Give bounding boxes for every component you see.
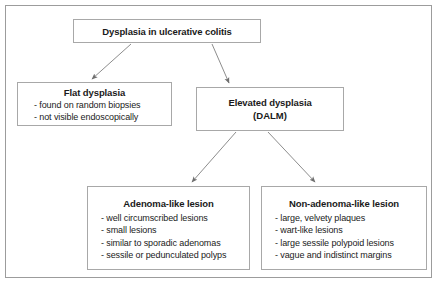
node-non-adenoma-like-lesion[interactable]: Non-adenoma-like lesion - large, velvety… (261, 186, 427, 270)
node-flat-dysplasia[interactable]: Flat dysplasia - found on random biopsie… (17, 82, 172, 126)
node-dysplasia-in-ulcerative-colitis[interactable]: Dysplasia in ulcerative colitis (73, 19, 261, 43)
list-item: - similar to sporadic adenomas (101, 237, 249, 249)
list-item: - large, velvety plaques (275, 212, 426, 224)
node-adenoma-like-lesion[interactable]: Adenoma-like lesion - well circumscribed… (87, 186, 250, 270)
list-item: - large sessile polypoid lesions (275, 237, 426, 249)
diagram-canvas: Dysplasia in ulcerative colitis Flat dys… (0, 0, 441, 288)
list-item: - vague and indistinct margins (275, 249, 426, 261)
node-title: Adenoma-like lesion (88, 197, 249, 210)
node-bullet-list: - found on random biopsies - not visible… (18, 99, 171, 124)
arrow-root-to-flat (92, 44, 131, 79)
list-item: - found on random biopsies (34, 99, 171, 111)
list-item: - well circumscribed lesions (101, 212, 249, 224)
arrow-elevated-to-adenoma (192, 132, 236, 182)
list-item: - not visible endoscopically (34, 111, 171, 123)
arrow-root-to-elevated (212, 44, 229, 83)
list-item: - small lesions (101, 224, 249, 236)
node-bullet-list: - large, velvety plaques - wart-like les… (262, 212, 426, 262)
list-item: - sessile or pedunculated polyps (101, 249, 249, 261)
node-title: Flat dysplasia (18, 86, 171, 99)
list-item: - wart-like lesions (275, 224, 426, 236)
node-subtitle: (DALM) (197, 109, 343, 122)
node-title: Non-adenoma-like lesion (262, 197, 426, 210)
node-elevated-dysplasia-dalm[interactable]: Elevated dysplasia (DALM) (196, 87, 344, 131)
arrow-elevated-to-nonadenoma (268, 132, 315, 182)
node-title: Dysplasia in ulcerative colitis (74, 25, 260, 38)
node-bullet-list: - well circumscribed lesions - small les… (88, 212, 249, 262)
node-title: Elevated dysplasia (197, 96, 343, 109)
